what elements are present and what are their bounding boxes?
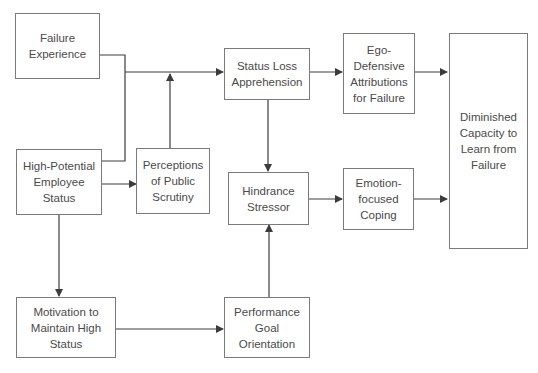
node-label: Diminished Capacity to Learn from Failur… [459,109,519,173]
node-failure-experience: Failure Experience [15,13,100,79]
edge-highpotential-to-junction [101,72,125,161]
node-motivation-high-status: Motivation to Maintain High Status [16,297,116,358]
node-label: Perceptions of Public Scrutiny [140,157,206,205]
node-label: Emotion-focused Coping [351,175,407,223]
edge-failure-to-junction [100,55,125,72]
node-label: High-Potential Employee Status [21,158,97,206]
node-high-potential-status: High-Potential Employee Status [16,149,102,215]
node-label: Hindrance Stressor [237,183,301,215]
node-public-scrutiny: Perceptions of Public Scrutiny [136,148,210,214]
node-hindrance-stressor: Hindrance Stressor [228,172,309,225]
node-status-loss-apprehension: Status Loss Apprehension [224,48,310,100]
node-performance-goal-orientation: Performance Goal Orientation [224,297,310,358]
node-label: Failure Experience [28,30,88,62]
node-label: Ego-Defensive Attributions for Failure [349,42,409,106]
node-ego-defensive-attributions: Ego-Defensive Attributions for Failure [343,33,415,114]
node-label: Motivation to Maintain High Status [21,304,111,352]
node-label: Performance Goal Orientation [229,304,305,352]
node-diminished-capacity: Diminished Capacity to Learn from Failur… [449,33,528,249]
node-label: Status Loss Apprehension [227,58,307,90]
node-emotion-focused-coping: Emotion-focused Coping [343,168,414,230]
